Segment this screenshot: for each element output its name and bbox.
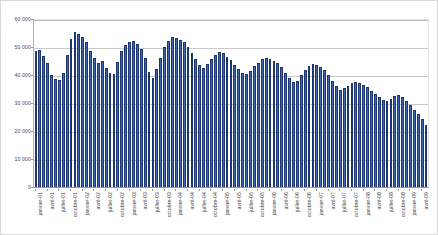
bar	[77, 34, 80, 188]
bar	[261, 59, 264, 188]
bar	[42, 56, 45, 188]
x-axis-tick-label: janvier-07	[318, 192, 324, 215]
bar	[273, 61, 276, 188]
x-axis-tick-mark	[269, 189, 270, 191]
x-axis-tick-label: avril-02	[95, 192, 101, 209]
bar	[241, 73, 244, 188]
x-axis-tick-label: avril-09	[423, 192, 429, 209]
bar	[183, 42, 186, 188]
bar	[148, 72, 151, 188]
x-axis-tick-mark	[70, 189, 71, 191]
bar	[187, 47, 190, 188]
x-axis-tick-label: juillet-01	[60, 192, 66, 212]
x-axis-tick-label: janvier-03	[131, 192, 137, 215]
bar	[233, 65, 236, 188]
bar	[109, 73, 112, 188]
x-axis-tick-label: janvier-02	[84, 192, 90, 215]
bar	[339, 90, 342, 188]
x-axis-tick-mark	[210, 189, 211, 191]
bar	[292, 82, 295, 188]
bar	[144, 58, 147, 188]
x-axis-tick-mark	[140, 189, 141, 191]
bar	[66, 55, 69, 188]
y-axis-tick-label: 40 000	[1, 72, 31, 78]
bar	[46, 63, 49, 188]
x-axis-tick-label: octobre-08	[400, 192, 406, 217]
x-axis: janvier-01avril-01juillet-01octobre-01ja…	[33, 189, 429, 235]
x-axis-tick-label: janvier-04	[177, 192, 183, 215]
bar	[191, 53, 194, 188]
x-axis-line	[33, 187, 429, 188]
bar	[210, 59, 213, 188]
x-axis-tick-label: octobre-05	[259, 192, 265, 217]
x-axis-tick-mark	[351, 189, 352, 191]
chart-container: 010 00020 00030 00040 00050 00060 000 ja…	[0, 0, 438, 235]
x-axis-tick-mark	[246, 189, 247, 191]
x-axis-tick-mark	[175, 189, 176, 191]
bar	[89, 51, 92, 188]
bar	[257, 63, 260, 188]
bar	[405, 101, 408, 188]
x-axis-tick-mark	[187, 189, 188, 191]
bar	[85, 42, 88, 188]
bar	[425, 125, 428, 188]
x-axis-tick-label: avril-06	[283, 192, 289, 209]
bar	[230, 60, 233, 188]
bar	[393, 96, 396, 188]
x-axis-tick-label: janvier-09	[411, 192, 417, 215]
x-axis-tick-mark	[93, 189, 94, 191]
bar	[323, 70, 326, 188]
y-axis-tick-label: 30 000	[1, 100, 31, 106]
bar	[194, 59, 197, 188]
bar	[351, 83, 354, 188]
bar	[93, 58, 96, 188]
bar	[249, 71, 252, 188]
x-axis-tick-mark	[35, 189, 36, 191]
bar	[253, 66, 256, 188]
bar	[382, 100, 385, 188]
x-axis-tick-label: juillet-07	[341, 192, 347, 212]
bar	[331, 81, 334, 188]
x-axis-tick-label: juillet-05	[248, 192, 254, 212]
bar	[163, 47, 166, 188]
bar	[312, 64, 315, 188]
x-axis-tick-mark	[117, 189, 118, 191]
bar	[300, 75, 303, 188]
x-axis-tick-mark	[82, 189, 83, 191]
x-axis-tick-mark	[257, 189, 258, 191]
x-axis-tick-mark	[234, 189, 235, 191]
bar	[269, 59, 272, 188]
x-axis-tick-label: avril-08	[376, 192, 382, 209]
bar	[202, 68, 205, 188]
bar	[226, 57, 229, 188]
bar	[366, 87, 369, 188]
x-axis-tick-label: octobre-03	[166, 192, 172, 217]
x-axis-tick-label: juillet-04	[201, 192, 207, 212]
bar	[401, 97, 404, 188]
x-axis-tick-mark	[164, 189, 165, 191]
bar	[214, 55, 217, 188]
y-axis-tick-label: 50 000	[1, 44, 31, 50]
x-axis-tick-label: juillet-02	[107, 192, 113, 212]
x-axis-tick-label: avril-07	[330, 192, 336, 209]
bar	[390, 99, 393, 188]
bar	[315, 65, 318, 188]
bar	[245, 74, 248, 188]
x-axis-tick-label: avril-05	[236, 192, 242, 209]
bar	[327, 75, 330, 188]
x-axis-tick-label: janvier-06	[271, 192, 277, 215]
x-axis-tick-label: octobre-02	[119, 192, 125, 217]
bar	[386, 101, 389, 188]
x-axis-tick-mark	[386, 189, 387, 191]
bar	[105, 68, 108, 188]
bar	[116, 62, 119, 188]
bar	[319, 67, 322, 188]
bar	[167, 41, 170, 188]
bar	[97, 63, 100, 188]
bar	[304, 70, 307, 188]
bar	[198, 65, 201, 188]
bar	[218, 52, 221, 188]
x-axis-tick-label: avril-01	[49, 192, 55, 209]
bar	[159, 58, 162, 188]
x-axis-tick-label: janvier-01	[37, 192, 43, 215]
